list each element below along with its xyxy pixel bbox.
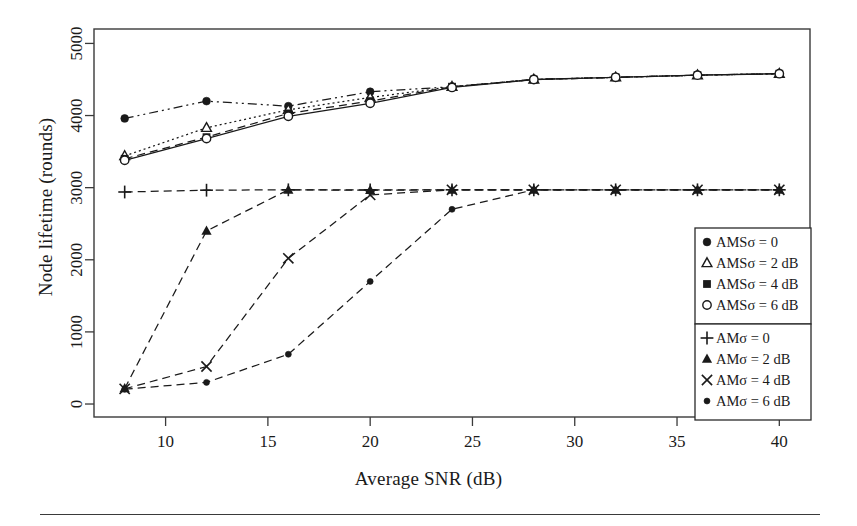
y-axis-label: Node lifetime (rounds)	[35, 77, 57, 337]
legend-marker-filled-square	[703, 280, 711, 288]
y-tick-label: 3000	[67, 171, 86, 205]
legend-label: AMSσ = 2 dB	[716, 255, 798, 271]
x-tick-label: 20	[362, 432, 379, 451]
legend-label: AMσ = 6 dB	[716, 393, 790, 409]
data-point-open-circle	[693, 71, 701, 79]
y-tick-label: 4000	[67, 99, 86, 133]
data-point-small-filled-circle	[694, 187, 700, 193]
x-axis-label: Average SNR (dB)	[0, 468, 857, 490]
legend-marker-open-circle	[703, 301, 711, 309]
chart-legend: AMSσ = 0AMSσ = 2 dBAMSσ = 4 dBAMSσ = 6 d…	[695, 228, 811, 420]
y-tick-label: 1000	[67, 315, 86, 349]
x-tick-label: 30	[566, 432, 583, 451]
data-point-small-filled-circle	[367, 278, 373, 284]
legend-label: AMSσ = 0	[716, 234, 778, 250]
data-point-open-circle	[448, 83, 456, 91]
data-point-open-circle	[611, 73, 619, 81]
data-point-small-filled-circle	[449, 206, 455, 212]
data-point-open-circle	[775, 70, 783, 78]
legend-label: AMSσ = 4 dB	[716, 276, 798, 292]
data-point-open-circle	[530, 75, 538, 83]
data-point-filled-circle	[121, 115, 129, 123]
data-point-open-circle	[120, 156, 128, 164]
data-point-open-circle	[202, 134, 210, 142]
legend-label: AMσ = 2 dB	[716, 351, 790, 367]
footer-divider-rule	[40, 514, 820, 515]
data-point-filled-circle	[203, 97, 211, 105]
y-tick-label: 0	[67, 400, 86, 409]
legend-label: AMSσ = 6 dB	[716, 297, 798, 313]
data-point-small-filled-circle	[776, 187, 782, 193]
x-tick-label: 35	[669, 432, 686, 451]
x-tick-label: 25	[464, 432, 481, 451]
figure-root: 10152025303540010002000300040005000 AMSσ…	[0, 0, 857, 526]
data-point-open-circle	[366, 99, 374, 107]
chart-figure: 10152025303540010002000300040005000 AMSσ…	[0, 0, 857, 526]
x-tick-label: 40	[771, 432, 788, 451]
data-point-small-filled-circle	[285, 351, 291, 357]
chart-canvas: 10152025303540010002000300040005000 AMSσ…	[0, 0, 857, 460]
x-tick-label: 10	[157, 432, 174, 451]
legend-label: AMσ = 4 dB	[716, 372, 790, 388]
legend-label: AMσ = 0	[716, 330, 770, 346]
y-tick-label: 2000	[67, 243, 86, 277]
data-point-small-filled-circle	[122, 386, 128, 392]
data-point-open-circle	[284, 112, 292, 120]
legend-marker-filled-circle	[703, 238, 711, 246]
data-point-small-filled-circle	[613, 187, 619, 193]
x-tick-label: 15	[259, 432, 276, 451]
y-tick-label: 5000	[67, 26, 86, 60]
legend-marker-small-filled-circle	[704, 398, 710, 404]
data-point-small-filled-circle	[531, 187, 537, 193]
data-point-small-filled-circle	[204, 379, 210, 385]
